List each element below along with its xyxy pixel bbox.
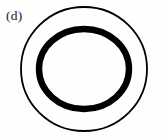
- panel-label: (d): [6, 8, 22, 23]
- concentric-ring-diagram: [0, 0, 167, 140]
- figure-background: [0, 0, 167, 140]
- figure-panel: (d): [0, 0, 167, 140]
